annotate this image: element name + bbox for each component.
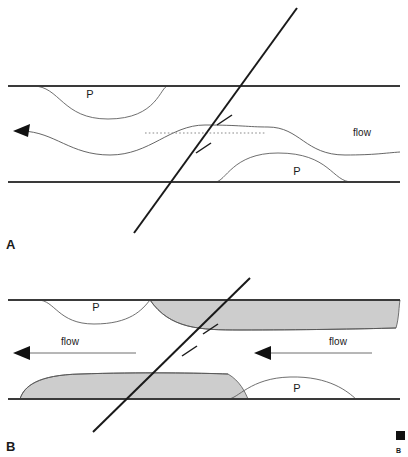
panel-b-lower-point-bar-lens	[228, 377, 356, 399]
panel-a-sinuous-channel-curve	[22, 125, 400, 155]
panel-b-point-bar-label-upper: P	[92, 301, 99, 313]
panel-a: P P flow A	[6, 8, 400, 252]
panel-b-fault-slip-tick-lower	[182, 346, 197, 356]
panel-a-fault-line	[134, 8, 297, 233]
panel-b-left-flow-arrowhead-icon	[13, 346, 30, 360]
panel-a-label: A	[6, 237, 16, 252]
panel-b-point-bar-label-lower: P	[293, 382, 300, 394]
panel-b-label: B	[6, 439, 15, 454]
panel-a-flow-label: flow	[353, 127, 372, 138]
panel-a-point-bar-label-upper: P	[86, 88, 93, 100]
geology-cross-section-figure: P P flow A	[0, 0, 408, 457]
figure-root: P P flow A	[0, 0, 408, 457]
panel-a-point-bar-label-lower: P	[293, 165, 300, 177]
panel-a-upper-point-bar-lens	[33, 86, 168, 119]
panel-b-right-flow-label: flow	[329, 336, 348, 347]
panel-b: flow flow P P B	[6, 278, 400, 454]
panel-a-flow-arrowhead-icon	[13, 124, 30, 137]
panel-b-right-flow-arrowhead-icon	[254, 346, 271, 360]
corner-square-mark	[396, 431, 405, 440]
corner-letter-mark: B	[396, 447, 401, 454]
panel-b-left-flow-label: flow	[61, 336, 80, 347]
corner-marks: B	[396, 431, 405, 454]
panel-a-lower-point-bar-lens	[215, 153, 352, 182]
